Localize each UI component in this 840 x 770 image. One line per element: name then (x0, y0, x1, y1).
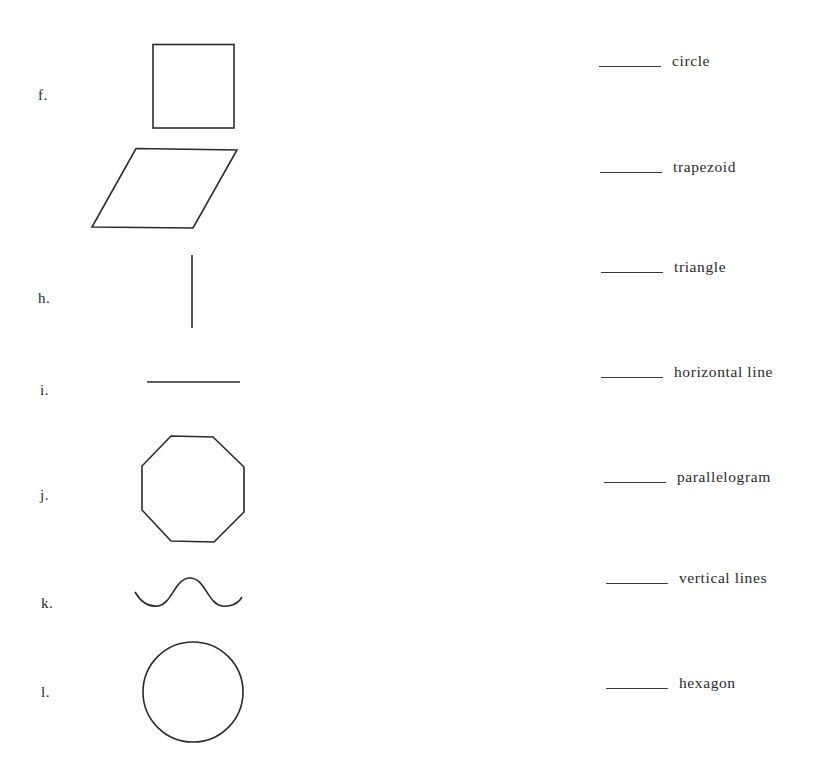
answer-row-vertical-lines: vertical lines (606, 567, 767, 587)
item-letter-f: f. (38, 88, 48, 103)
circle-shape (143, 642, 243, 742)
square-shape (153, 45, 234, 129)
answer-term: vertical lines (679, 569, 767, 587)
parallelogram-shape (92, 149, 237, 229)
answer-term: triangle (674, 258, 726, 276)
shapes-canvas (0, 0, 840, 770)
answer-term: hexagon (679, 674, 736, 692)
answer-blank[interactable] (601, 272, 663, 273)
answer-row-parallelogram: parallelogram (604, 466, 771, 486)
octagon-shape (142, 436, 244, 542)
item-letter-h: h. (38, 291, 50, 306)
answer-row-circle: circle (599, 50, 710, 70)
answer-row-horizontal-line: horizontal line (601, 361, 773, 381)
answer-blank[interactable] (606, 688, 668, 689)
item-letter-i: i. (40, 383, 49, 398)
wavy-curve-shape (135, 578, 242, 606)
answer-row-trapezoid: trapezoid (600, 156, 736, 176)
answer-term: parallelogram (677, 468, 771, 486)
answer-term: horizontal line (674, 363, 773, 381)
answer-term: trapezoid (673, 158, 736, 176)
item-letter-j: j. (40, 488, 49, 503)
item-letter-l: l. (41, 685, 50, 700)
answer-blank[interactable] (604, 482, 666, 483)
answer-blank[interactable] (599, 66, 661, 67)
answer-row-triangle: triangle (601, 256, 726, 276)
answer-blank[interactable] (601, 377, 663, 378)
answer-row-hexagon: hexagon (606, 672, 736, 692)
answer-term: circle (672, 52, 710, 70)
matching-worksheet: f. h. i. j. k. l. circle trapezoid trian… (0, 0, 840, 770)
answer-blank[interactable] (600, 172, 662, 173)
answer-blank[interactable] (606, 583, 668, 584)
item-letter-k: k. (41, 596, 53, 611)
